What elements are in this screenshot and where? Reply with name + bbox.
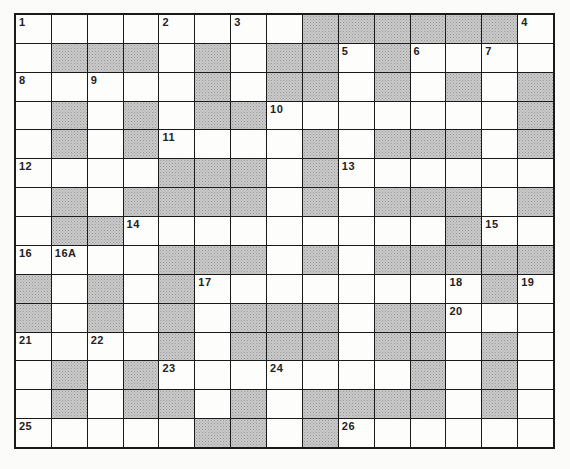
answer-cell[interactable] [482,188,517,216]
answer-cell[interactable] [52,275,87,303]
answer-cell[interactable] [303,275,338,303]
answer-cell[interactable] [231,275,266,303]
answer-cell[interactable] [195,304,230,332]
answer-cell[interactable] [518,159,553,187]
answer-cell[interactable] [375,361,410,389]
answer-cell[interactable] [411,73,446,101]
answer-cell[interactable]: 18 [446,275,481,303]
answer-cell[interactable] [482,130,517,158]
answer-cell[interactable] [339,188,374,216]
answer-cell[interactable] [231,217,266,245]
answer-cell[interactable]: 26 [339,419,374,447]
answer-cell[interactable] [195,333,230,361]
answer-cell[interactable] [124,304,159,332]
answer-cell[interactable] [88,102,123,130]
answer-cell[interactable] [88,361,123,389]
answer-cell[interactable] [16,361,51,389]
answer-cell[interactable] [339,130,374,158]
answer-cell[interactable] [375,217,410,245]
answer-cell[interactable] [88,159,123,187]
answer-cell[interactable] [159,102,194,130]
answer-cell[interactable] [411,159,446,187]
answer-cell[interactable]: 1 [16,15,51,43]
answer-cell[interactable] [303,361,338,389]
answer-cell[interactable] [303,217,338,245]
answer-cell[interactable]: 19 [518,275,553,303]
answer-cell[interactable]: 17 [195,275,230,303]
answer-cell[interactable] [124,333,159,361]
answer-cell[interactable] [446,44,481,72]
answer-cell[interactable] [411,419,446,447]
answer-cell[interactable] [446,361,481,389]
answer-cell[interactable] [16,390,51,418]
answer-cell[interactable] [339,304,374,332]
answer-cell[interactable] [482,304,517,332]
answer-cell[interactable]: 16 [16,246,51,274]
answer-cell[interactable] [267,246,302,274]
answer-cell[interactable] [518,333,553,361]
answer-cell[interactable] [375,102,410,130]
answer-cell[interactable] [339,102,374,130]
answer-cell[interactable] [52,419,87,447]
answer-cell[interactable] [375,419,410,447]
answer-cell[interactable] [267,159,302,187]
answer-cell[interactable] [124,246,159,274]
answer-cell[interactable] [339,275,374,303]
answer-cell[interactable]: 10 [267,102,302,130]
answer-cell[interactable]: 12 [16,159,51,187]
answer-cell[interactable] [446,102,481,130]
answer-cell[interactable] [88,130,123,158]
answer-cell[interactable] [52,159,87,187]
answer-cell[interactable] [446,390,481,418]
answer-cell[interactable] [124,15,159,43]
answer-cell[interactable] [518,217,553,245]
answer-cell[interactable] [159,419,194,447]
answer-cell[interactable]: 13 [339,159,374,187]
answer-cell[interactable] [375,159,410,187]
answer-cell[interactable] [518,390,553,418]
answer-cell[interactable]: 4 [518,15,553,43]
answer-cell[interactable]: 5 [339,44,374,72]
answer-cell[interactable]: 21 [16,333,51,361]
answer-cell[interactable] [16,217,51,245]
answer-cell[interactable] [88,390,123,418]
answer-cell[interactable]: 22 [88,333,123,361]
answer-cell[interactable] [482,419,517,447]
answer-cell[interactable] [195,390,230,418]
answer-cell[interactable]: 20 [446,304,481,332]
answer-cell[interactable] [267,130,302,158]
answer-cell[interactable] [159,44,194,72]
answer-cell[interactable] [231,44,266,72]
answer-cell[interactable] [124,419,159,447]
answer-cell[interactable]: 14 [124,217,159,245]
answer-cell[interactable] [88,419,123,447]
answer-cell[interactable] [16,130,51,158]
answer-cell[interactable] [446,333,481,361]
answer-cell[interactable] [124,159,159,187]
answer-cell[interactable]: 23 [159,361,194,389]
answer-cell[interactable]: 6 [411,44,446,72]
answer-cell[interactable] [195,130,230,158]
answer-cell[interactable] [267,390,302,418]
answer-cell[interactable]: 2 [159,15,194,43]
answer-cell[interactable] [339,73,374,101]
answer-cell[interactable] [303,102,338,130]
answer-cell[interactable] [231,73,266,101]
answer-cell[interactable] [339,333,374,361]
answer-cell[interactable] [52,304,87,332]
answer-cell[interactable] [518,361,553,389]
answer-cell[interactable] [52,333,87,361]
answer-cell[interactable] [411,275,446,303]
answer-cell[interactable] [411,217,446,245]
answer-cell[interactable]: 24 [267,361,302,389]
answer-cell[interactable] [195,217,230,245]
answer-cell[interactable] [339,246,374,274]
answer-cell[interactable] [88,246,123,274]
answer-cell[interactable] [124,275,159,303]
answer-cell[interactable]: 25 [16,419,51,447]
answer-cell[interactable]: 7 [482,44,517,72]
answer-cell[interactable] [16,102,51,130]
answer-cell[interactable] [446,159,481,187]
answer-cell[interactable] [267,188,302,216]
answer-cell[interactable] [267,275,302,303]
